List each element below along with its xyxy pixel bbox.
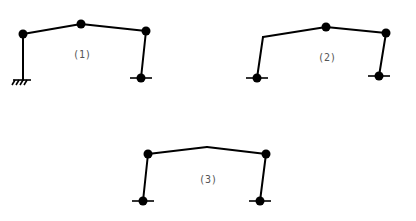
frame-label: (3) [199, 174, 217, 185]
hinge-node-icon [139, 197, 148, 206]
frame-member [143, 154, 148, 201]
hinge-node-icon [137, 74, 146, 83]
hinge-node-icon [256, 197, 265, 206]
frame-3: (3) [132, 147, 271, 206]
frame-label: (1) [73, 49, 91, 60]
hinge-node-icon [253, 74, 262, 83]
frame-member [379, 33, 386, 76]
fixed-support-icon [12, 80, 31, 85]
frame-member [81, 24, 146, 31]
frame-member [263, 27, 326, 37]
frames-diagram: (1)(2)(3) [0, 0, 416, 221]
frame-member [141, 31, 146, 78]
frame-member [260, 154, 266, 201]
hinge-node-icon [262, 150, 271, 159]
frame-member [257, 37, 263, 78]
hinge-node-icon [322, 23, 331, 32]
frame-label: (2) [318, 52, 336, 63]
hinge-node-icon [144, 150, 153, 159]
hinge-node-icon [375, 72, 384, 81]
frame-2: (2) [246, 23, 391, 83]
hinge-node-icon [142, 27, 151, 36]
frame-member [148, 147, 207, 154]
hinge-node-icon [77, 20, 86, 29]
frame-member [326, 27, 386, 33]
hinge-node-icon [382, 29, 391, 38]
frame-member [207, 147, 266, 154]
hinge-node-icon [19, 30, 28, 39]
frame-1: (1) [12, 20, 152, 86]
frame-member [23, 24, 81, 34]
